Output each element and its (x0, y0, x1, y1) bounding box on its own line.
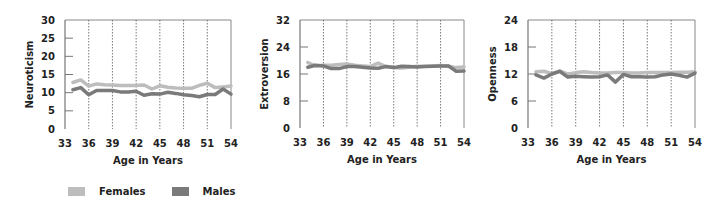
y-tick-label: 25 (41, 33, 55, 44)
x-tick-label: 42 (363, 137, 377, 148)
extroversion-plot: 081624323336394245485154Age in YearsExtr… (238, 0, 476, 170)
openness-chart: 061218243336394245485154Age in YearsOpen… (476, 0, 714, 170)
x-tick-label: 51 (200, 138, 214, 149)
y-tick-label: 32 (276, 15, 290, 26)
x-tick-label: 39 (569, 137, 583, 148)
x-tick-label: 51 (434, 137, 448, 148)
y-tick-label: 30 (41, 15, 55, 26)
y-tick-label: 16 (276, 69, 290, 80)
x-tick-label: 36 (545, 137, 559, 148)
y-axis-title: Extroversion (259, 38, 270, 109)
extroversion-chart: 081624323336394245485154Age in YearsExtr… (238, 0, 476, 170)
x-tick-label: 39 (340, 137, 354, 148)
y-tick-label: 24 (276, 42, 290, 53)
x-tick-label: 54 (688, 137, 702, 148)
x-axis-title: Age in Years (577, 154, 647, 165)
x-tick-label: 42 (593, 137, 607, 148)
x-tick-label: 48 (410, 137, 424, 148)
x-tick-label: 36 (82, 138, 96, 149)
x-tick-label: 33 (293, 137, 307, 148)
y-axis-title: Openness (487, 46, 498, 101)
legend-item-females: Females (68, 186, 146, 197)
males-swatch (172, 187, 189, 196)
y-tick-label: 0 (283, 123, 290, 134)
legend: Females Males (68, 186, 261, 197)
openness-plot: 061218243336394245485154Age in YearsOpen… (476, 0, 714, 170)
y-tick-label: 18 (504, 42, 518, 53)
x-axis-title: Age in Years (113, 155, 183, 166)
y-tick-label: 0 (48, 124, 55, 135)
y-axis-title: Neuroticism (24, 40, 35, 108)
y-tick-label: 24 (504, 15, 518, 26)
x-tick-label: 42 (129, 138, 143, 149)
x-tick-label: 48 (640, 137, 654, 148)
x-tick-label: 36 (316, 137, 330, 148)
legend-item-males: Males (172, 186, 236, 197)
y-tick-label: 10 (41, 87, 55, 98)
x-tick-label: 51 (664, 137, 678, 148)
females-swatch (68, 187, 85, 196)
legend-label-males: Males (203, 186, 236, 197)
y-tick-label: 6 (511, 96, 518, 107)
y-tick-label: 12 (504, 69, 518, 80)
x-tick-label: 33 (521, 137, 535, 148)
y-tick-label: 20 (41, 51, 55, 62)
x-tick-label: 39 (105, 138, 119, 149)
x-tick-label: 45 (616, 137, 630, 148)
y-tick-label: 5 (48, 105, 55, 116)
neuroticism-plot: 0510152025303336394245485154Age in Years… (0, 0, 238, 170)
y-tick-label: 0 (511, 123, 518, 134)
x-tick-label: 48 (177, 138, 191, 149)
x-axis-title: Age in Years (347, 154, 417, 165)
neuroticism-chart: 0510152025303336394245485154Age in Years… (0, 0, 238, 170)
y-tick-label: 8 (283, 96, 290, 107)
x-tick-label: 33 (58, 138, 72, 149)
x-tick-label: 45 (153, 138, 167, 149)
x-tick-label: 54 (457, 137, 471, 148)
legend-label-females: Females (99, 186, 146, 197)
y-tick-label: 15 (41, 69, 55, 80)
x-tick-label: 54 (224, 138, 238, 149)
x-tick-label: 45 (387, 137, 401, 148)
